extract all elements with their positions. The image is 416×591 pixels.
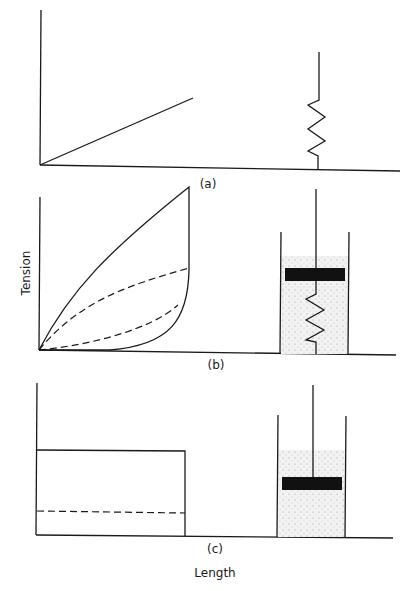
x-axis-a bbox=[40, 165, 400, 171]
piston-icon bbox=[285, 268, 345, 281]
y-axis-b bbox=[39, 197, 40, 350]
y-axis-label: Tension bbox=[19, 251, 33, 297]
y-axis-a bbox=[40, 10, 41, 165]
cylinder-left-wall bbox=[280, 232, 281, 354]
dashed-lower-curve bbox=[39, 305, 178, 350]
y-axis-c bbox=[36, 383, 37, 535]
panel-label-c: (c) bbox=[207, 542, 223, 556]
piston-icon bbox=[282, 477, 342, 490]
cylinder-right-wall bbox=[345, 416, 346, 538]
panel-b: (b) Tension bbox=[19, 187, 396, 372]
viscoelastic-figure: (a) (b) Tension (c) Length bbox=[0, 0, 416, 591]
fluid bbox=[278, 450, 345, 537]
x-axis-label: Length bbox=[194, 566, 235, 580]
panel-label-b: (b) bbox=[208, 358, 225, 372]
panel-c: (c) Length bbox=[36, 383, 393, 580]
rectangular-curve bbox=[37, 450, 185, 536]
panel-a: (a) bbox=[40, 10, 400, 191]
panel-label-a: (a) bbox=[200, 177, 217, 191]
linear-curve bbox=[40, 98, 193, 165]
hysteresis-loop bbox=[39, 187, 189, 350]
dashed-upper-curve bbox=[39, 268, 189, 350]
cylinder-right-wall bbox=[348, 232, 349, 354]
cylinder-left-wall bbox=[277, 415, 278, 537]
spring-icon bbox=[308, 52, 325, 170]
dashed-level bbox=[37, 511, 185, 513]
